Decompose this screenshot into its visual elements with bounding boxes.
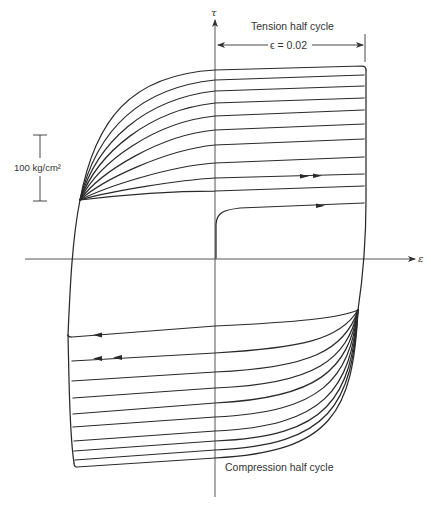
axes: τ ε <box>25 7 423 497</box>
tension-curves <box>68 66 366 335</box>
tension-annotation: Tension half cycle ϵ = 0.02 <box>218 20 365 62</box>
compression-curves <box>68 310 358 467</box>
tau-axis-label: τ <box>211 7 217 18</box>
stress-scale-bar: 100 kg/cm² <box>14 135 61 201</box>
double-arrow-right-icon <box>300 174 322 179</box>
strain-amplitude-label: ϵ = 0.02 <box>270 39 307 51</box>
single-arrow-left-icon <box>93 333 102 338</box>
compression-half-cycle-label: Compression half cycle <box>225 461 334 473</box>
initial-loading-curve <box>216 203 364 258</box>
tension-half-cycle-label: Tension half cycle <box>251 20 334 32</box>
epsilon-axis-label: ε <box>418 253 423 264</box>
hysteresis-diagram: τ ε Tension half cycle ϵ = 0.02 100 kg/c… <box>0 0 431 510</box>
scale-bar-label: 100 kg/cm² <box>14 162 61 173</box>
